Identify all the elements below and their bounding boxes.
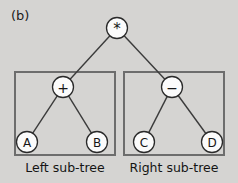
left-subtree-caption: Left sub-tree xyxy=(15,160,115,175)
edge-minus-d xyxy=(178,95,206,133)
edge-plus-a xyxy=(33,96,57,133)
node-root-label: * xyxy=(113,20,121,38)
node-root: * xyxy=(107,18,128,39)
tree-nodes: * + − A B C xyxy=(17,18,223,153)
node-plus-label: + xyxy=(57,80,69,96)
expression-tree-diagram: * + − A B C xyxy=(0,0,238,183)
node-d-label: D xyxy=(207,136,216,150)
expression-tree-figure: (b) * + − xyxy=(0,0,238,183)
node-a-label: A xyxy=(23,136,32,150)
node-c-label: C xyxy=(140,136,148,150)
edge-plus-b xyxy=(69,96,92,133)
node-d: D xyxy=(202,132,223,153)
node-b: B xyxy=(87,132,108,153)
node-plus: + xyxy=(53,77,74,98)
node-minus: − xyxy=(162,77,183,98)
node-c: C xyxy=(134,132,155,153)
right-subtree-caption: Right sub-tree xyxy=(124,160,224,175)
node-a: A xyxy=(17,132,38,153)
node-minus-label: − xyxy=(166,80,178,96)
node-b-label: B xyxy=(93,136,101,150)
edge-minus-c xyxy=(149,96,167,132)
